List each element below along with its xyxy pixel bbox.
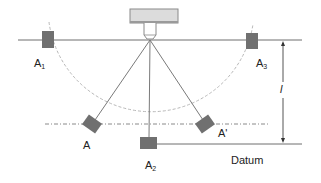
camera-body <box>130 9 178 23</box>
label-a1: A1 <box>34 58 45 70</box>
ray-to-a-prime <box>150 40 203 120</box>
label-a1-sub: 1 <box>41 63 45 70</box>
camera-lens <box>144 23 156 39</box>
block-a <box>82 114 102 133</box>
arrowhead-up-icon <box>281 41 285 46</box>
block-a3 <box>246 33 258 49</box>
ray-to-a <box>95 40 150 120</box>
block-a2 <box>140 137 157 149</box>
diagram-canvas <box>0 0 321 183</box>
label-a-prime: A' <box>218 128 227 139</box>
camera-body-base <box>130 21 178 23</box>
block-a1 <box>42 31 54 48</box>
label-a2-sub: 2 <box>152 165 156 172</box>
label-a3: A3 <box>256 58 267 70</box>
label-a3-sub: 3 <box>263 63 267 70</box>
label-a: A <box>83 140 90 151</box>
label-datum: Datum <box>231 155 263 166</box>
block-a-prime <box>195 114 215 133</box>
label-length: l <box>280 84 282 95</box>
label-a2: A2 <box>145 160 156 172</box>
ray-to-a2 <box>149 40 150 137</box>
arrowhead-down-icon <box>281 138 285 143</box>
